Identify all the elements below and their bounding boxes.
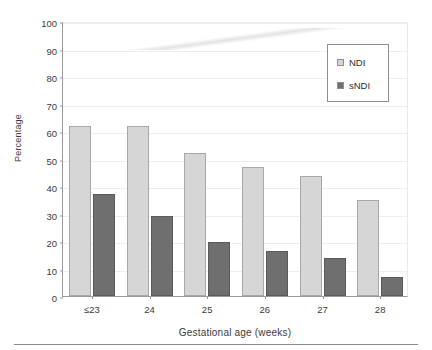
x-tick-label: ≤23	[84, 304, 100, 315]
bar-ndi-1	[127, 126, 149, 297]
bar-sndi-3	[266, 251, 288, 296]
chart-legend: NDI sNDI	[327, 44, 389, 102]
y-tick-label: 60	[46, 128, 57, 139]
x-tick-mark	[92, 296, 93, 299]
x-tick-label: 28	[375, 304, 386, 315]
x-tick-mark	[150, 296, 151, 299]
bar-sndi-1	[151, 216, 173, 296]
y-tick-label: 40	[46, 183, 57, 194]
legend-label-ndi: NDI	[349, 57, 365, 68]
bar-sndi-4	[324, 258, 346, 297]
y-tick-label: 70	[46, 100, 57, 111]
legend-item-sndi: sNDI	[337, 80, 370, 91]
x-tick-mark	[323, 296, 324, 299]
legend-label-sndi: sNDI	[349, 80, 370, 91]
bar-sndi-0	[93, 194, 115, 296]
figure-bar-chart: Percentage 0102030405060708090100 ≤23242…	[0, 0, 432, 350]
y-tick-label: 0	[52, 293, 57, 304]
dark-gray-swatch-icon	[337, 82, 344, 89]
y-tick-label: 80	[46, 73, 57, 84]
x-tick-mark	[265, 296, 266, 299]
footer-divider	[14, 344, 418, 345]
y-tick-label: 30	[46, 210, 57, 221]
y-tick-mark	[60, 298, 63, 299]
y-tick-label: 90	[46, 45, 57, 56]
y-tick-label: 10	[46, 265, 57, 276]
bar-ndi-0	[69, 126, 91, 297]
y-tick-label: 50	[46, 155, 57, 166]
x-tick-label: 26	[260, 304, 271, 315]
x-tick-label: 25	[202, 304, 213, 315]
bar-group	[127, 23, 173, 296]
x-axis-title: Gestational age (weeks)	[62, 327, 408, 338]
legend-item-ndi: NDI	[337, 57, 365, 68]
bar-ndi-4	[300, 176, 322, 296]
bar-sndi-2	[208, 242, 230, 296]
y-tick-label: 20	[46, 238, 57, 249]
light-gray-swatch-icon	[337, 59, 344, 66]
bar-sndi-5	[381, 277, 403, 296]
y-axis-title: Percentage	[13, 98, 23, 178]
bar-ndi-5	[357, 200, 379, 296]
bar-ndi-3	[242, 167, 264, 296]
bar-group	[69, 23, 115, 296]
x-tick-label: 27	[317, 304, 328, 315]
x-tick-mark	[380, 296, 381, 299]
bar-group	[184, 23, 230, 296]
x-tick-label: 24	[144, 304, 155, 315]
bar-group	[242, 23, 288, 296]
y-tick-label: 100	[41, 18, 57, 29]
bar-ndi-2	[184, 153, 206, 296]
x-tick-mark	[207, 296, 208, 299]
